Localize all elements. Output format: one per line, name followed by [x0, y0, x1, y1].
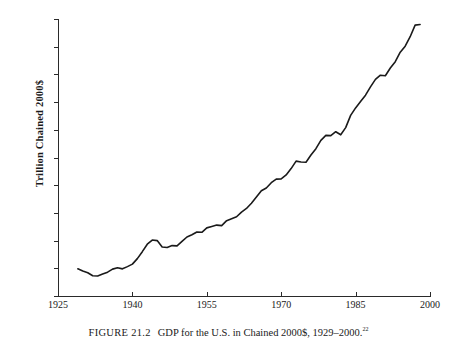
footnote-marker-icon: 22: [362, 326, 368, 332]
x-tick-label: 1925: [38, 300, 78, 310]
gdp-line-series: [58, 19, 431, 297]
x-tick-label: 2000: [410, 300, 450, 310]
caption-figure-number: FIGURE 21.2: [89, 327, 151, 338]
figure-container: Trillion Chained 2000$ 012345678910 1925…: [0, 0, 457, 350]
x-tick-label: 1985: [336, 300, 376, 310]
figure-caption: FIGURE 21.2GDP for the U.S. in Chained 2…: [0, 326, 457, 338]
x-tick-label: 1940: [112, 300, 152, 310]
y-axis-title: Trillion Chained 2000$: [34, 59, 45, 209]
x-tick-label: 1970: [261, 300, 301, 310]
caption-text: GDP for the U.S. in Chained 2000$, 1929–…: [158, 327, 363, 338]
x-tick-label: 1955: [187, 300, 227, 310]
